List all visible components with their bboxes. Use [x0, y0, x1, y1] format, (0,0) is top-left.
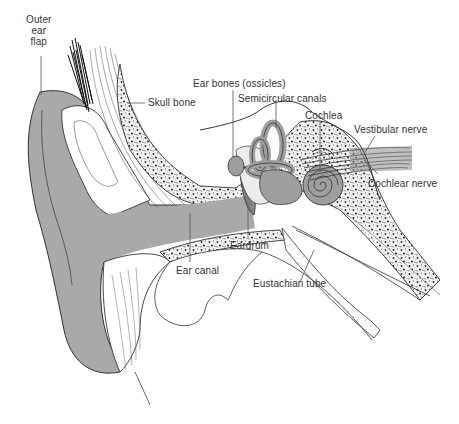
ossicles-shape	[228, 156, 244, 176]
label-cochlear-nerve: Cochlear nerve	[368, 178, 437, 189]
label-outer-ear-flap-line-1: Outer	[26, 14, 52, 25]
ear-anatomy-diagram: Outer ear flap Skull bone Ear bones (oss…	[0, 0, 459, 424]
label-skull-bone: Skull bone	[148, 97, 196, 108]
label-ear-canal: Ear canal	[176, 265, 219, 276]
label-cochlea: Cochlea	[305, 110, 342, 121]
ear-illustration	[0, 0, 459, 424]
label-ear-bones: Ear bones (ossicles)	[193, 78, 286, 89]
label-eustachian-tube: Eustachian tube	[253, 278, 326, 289]
label-outer-ear-flap-line-3: flap	[26, 36, 52, 47]
label-vestibular-nerve: Vestibular nerve	[354, 124, 427, 135]
label-semicircular-canals: Semicircular canals	[238, 93, 327, 104]
label-outer-ear-flap: Outer ear flap	[26, 14, 52, 47]
label-eardrum: Eardrum	[230, 240, 269, 251]
label-outer-ear-flap-line-2: ear	[26, 25, 52, 36]
